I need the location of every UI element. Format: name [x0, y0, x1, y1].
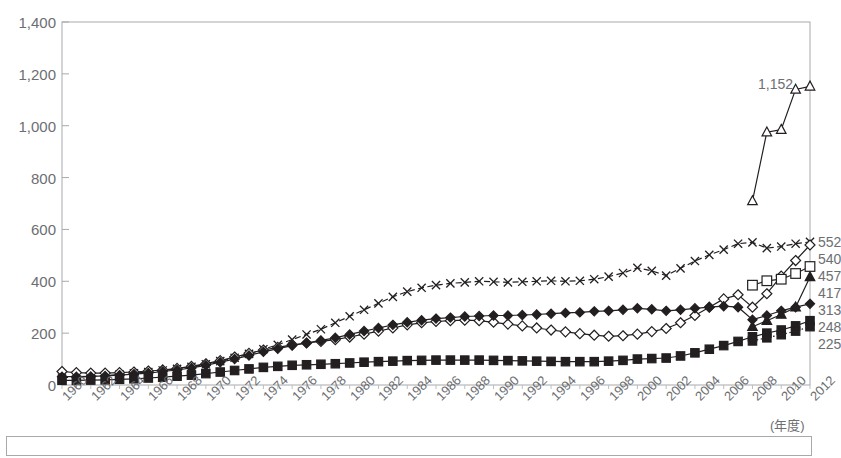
marker-filled-diamond — [302, 338, 311, 347]
series-peak-label: 1,152 — [758, 77, 793, 91]
marker-filled-square — [590, 357, 598, 365]
marker-open-diamond — [532, 323, 542, 333]
marker-open-square — [791, 269, 801, 279]
marker-filled-square — [504, 356, 512, 364]
marker-filled-square — [532, 357, 540, 365]
marker-filled-square — [374, 357, 382, 365]
marker-open-square — [748, 280, 758, 290]
marker-cross — [648, 267, 656, 275]
marker-filled-diamond — [489, 311, 498, 320]
marker-cross — [748, 238, 756, 246]
marker-filled-square — [461, 356, 469, 364]
marker-filled-square — [230, 366, 238, 374]
marker-filled-square — [561, 357, 569, 365]
marker-filled-diamond — [690, 304, 699, 313]
series-end-label: 248 — [818, 320, 841, 334]
marker-filled-square — [489, 356, 497, 364]
marker-open-triangle — [776, 124, 786, 133]
marker-filled-square — [317, 360, 325, 368]
marker-filled-square — [604, 357, 612, 365]
marker-filled-square — [719, 341, 727, 349]
marker-cross — [374, 299, 382, 307]
marker-open-square — [776, 274, 786, 284]
marker-cross — [317, 325, 325, 333]
marker-filled-square — [806, 322, 814, 330]
marker-filled-diamond — [590, 307, 599, 316]
marker-filled-square — [734, 337, 742, 345]
marker-filled-square — [791, 327, 799, 335]
marker-filled-diamond — [561, 308, 570, 317]
series-line — [753, 86, 811, 201]
marker-filled-square — [202, 369, 210, 377]
marker-open-square — [805, 262, 815, 272]
marker-filled-diamond — [676, 305, 685, 314]
marker-filled-diamond — [805, 299, 814, 308]
marker-open-diamond — [604, 331, 614, 341]
marker-filled-square — [475, 356, 483, 364]
series-end-label: 540 — [818, 252, 841, 266]
marker-filled-diamond — [705, 303, 714, 312]
marker-filled-square — [547, 357, 555, 365]
marker-filled-square — [173, 372, 181, 380]
marker-filled-square — [417, 356, 425, 364]
series-end-label: 552 — [818, 235, 841, 249]
marker-filled-square — [633, 355, 641, 363]
marker-filled-square — [259, 363, 267, 371]
marker-filled-diamond — [503, 311, 512, 320]
marker-filled-square — [446, 356, 454, 364]
series-end-label: 417 — [818, 286, 841, 300]
marker-open-diamond — [517, 321, 527, 331]
marker-filled-square — [619, 356, 627, 364]
marker-open-diamond — [632, 329, 642, 339]
marker-filled-diamond — [633, 304, 642, 313]
series-series-open-triangle — [748, 81, 815, 205]
marker-cross — [691, 257, 699, 265]
marker-filled-square — [389, 357, 397, 365]
marker-filled-square — [691, 349, 699, 357]
marker-open-diamond — [546, 325, 556, 335]
marker-filled-diamond — [647, 305, 656, 314]
marker-cross — [705, 251, 713, 259]
marker-filled-square — [58, 376, 66, 384]
marker-filled-square — [662, 354, 670, 362]
marker-filled-diamond — [618, 305, 627, 314]
marker-open-square — [762, 276, 772, 286]
marker-cross — [418, 284, 426, 292]
series-end-label: 313 — [818, 303, 841, 317]
marker-filled-square — [331, 360, 339, 368]
marker-filled-square — [518, 357, 526, 365]
marker-open-diamond — [589, 330, 599, 340]
marker-filled-diamond — [662, 306, 671, 315]
marker-cross — [360, 306, 368, 314]
marker-open-diamond — [618, 331, 628, 341]
marker-filled-square — [576, 357, 584, 365]
plot-frame — [62, 22, 810, 385]
marker-cross — [403, 288, 411, 296]
marker-cross — [346, 312, 354, 320]
marker-filled-diamond — [719, 302, 728, 311]
series-end-label: 225 — [818, 337, 841, 351]
marker-filled-square — [403, 356, 411, 364]
marker-filled-square — [748, 337, 756, 345]
marker-cross — [605, 273, 613, 281]
series-end-label: 457 — [818, 269, 841, 283]
marker-filled-square — [777, 330, 785, 338]
marker-open-diamond — [560, 327, 570, 337]
marker-filled-square — [288, 361, 296, 369]
marker-cross — [662, 271, 670, 279]
marker-open-diamond — [575, 329, 585, 339]
marker-cross — [389, 293, 397, 301]
marker-cross — [676, 264, 684, 272]
marker-filled-triangle — [805, 272, 815, 281]
x-axis-unit-label: (年度) — [770, 415, 805, 434]
marker-filled-square — [648, 354, 656, 362]
marker-filled-square — [274, 362, 282, 370]
marker-cross — [619, 269, 627, 277]
marker-filled-square — [302, 361, 310, 369]
marker-open-diamond — [676, 318, 686, 328]
marker-cross — [331, 319, 339, 327]
marker-open-diamond — [661, 323, 671, 333]
marker-filled-diamond — [575, 308, 584, 317]
footer-note-box — [6, 436, 812, 456]
